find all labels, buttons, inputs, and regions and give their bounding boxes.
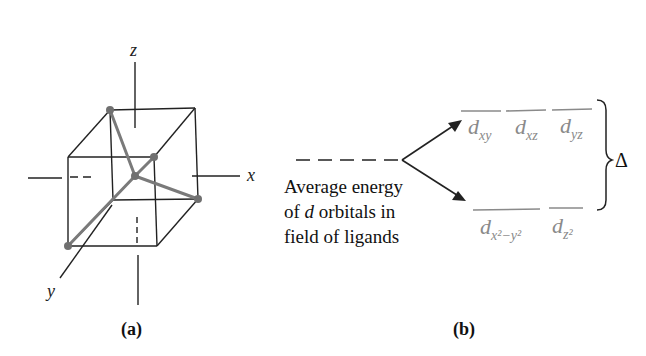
- y-axis-label: y: [45, 281, 55, 301]
- arrow-down-line: [402, 160, 460, 197]
- ligand-atom: [150, 153, 158, 161]
- cube-edge: [154, 157, 157, 246]
- orbital-label-dxy: dxy: [468, 114, 492, 143]
- orbital-label-dyz: dyz: [560, 113, 583, 142]
- orbital-label-dx2-y2: dx²−y²: [480, 214, 522, 243]
- upper-levels: [461, 109, 592, 111]
- arrow-up-head: [448, 120, 462, 132]
- ligand-atom: [64, 242, 72, 250]
- cube-edge: [110, 108, 195, 110]
- level-dxz: [506, 110, 546, 111]
- description-line-3: field of ligands: [284, 226, 399, 247]
- description-line-1: Average energy: [284, 176, 404, 197]
- energy-diagram: dxy dxz dyz dx²−y² dz² Δ Average energy …: [284, 100, 628, 247]
- orbital-label-dz2: dz²: [552, 213, 573, 242]
- panel-a-label: (a): [121, 319, 142, 340]
- description-line-2: of d orbitals in: [284, 201, 396, 222]
- cube-edge: [157, 199, 198, 246]
- ligand-atom: [106, 106, 114, 114]
- panel-b-label: (b): [453, 319, 475, 340]
- cube-diagram: [28, 62, 240, 305]
- cube-edge: [195, 108, 198, 199]
- bond: [135, 157, 154, 176]
- level-dx2y2: [473, 209, 540, 210]
- lower-levels: [473, 208, 583, 210]
- level-dyz: [552, 109, 592, 110]
- cube-edge: [110, 110, 113, 200]
- arrow-up-line: [402, 124, 456, 160]
- x-axis-label: x: [246, 165, 255, 185]
- orbital-label-dxz: dxz: [515, 114, 538, 143]
- ligand-atom: [194, 195, 202, 203]
- delta-symbol: Δ: [615, 149, 628, 171]
- splitting-brace: [597, 100, 612, 210]
- cube-edge: [154, 108, 195, 157]
- bond: [110, 110, 135, 176]
- z-axis-label: z: [129, 40, 137, 60]
- cube-edge: [68, 110, 110, 157]
- bond: [68, 176, 135, 246]
- metal-atom: [131, 172, 139, 180]
- bond: [135, 176, 198, 199]
- tetrahedral-crystal-field-figure: z x y (a) dxy dxz dyz dx²−y² dz² Δ: [0, 0, 646, 356]
